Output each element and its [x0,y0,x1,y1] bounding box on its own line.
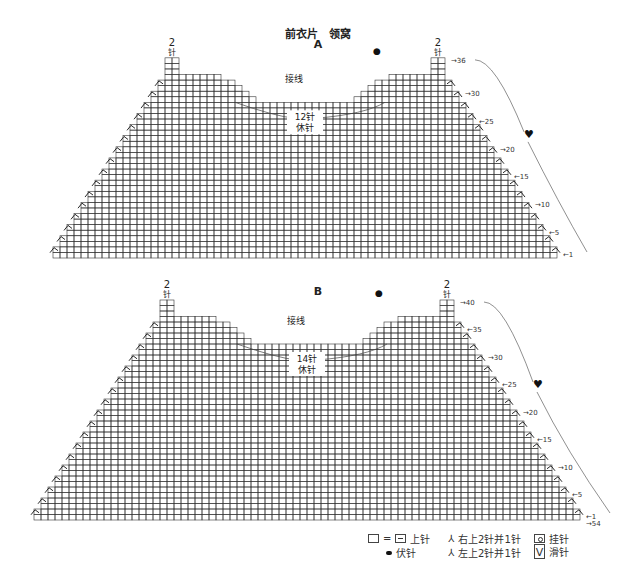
svg-text:→20: →20 [523,409,538,417]
svg-text:接线: 接线 [287,315,305,326]
legend-slip: V 滑针 [534,544,569,559]
svg-text:←5: ←5 [572,491,582,499]
slip-icon: V [534,544,545,559]
legend-bind-off: 伏针 [386,545,416,560]
svg-text:休针: 休针 [298,364,316,375]
svg-text:→10: →10 [558,464,573,472]
svg-text:←35: ←35 [467,326,482,334]
svg-text:●: ● [375,288,383,298]
empty-box-icon [368,534,379,543]
legend-left-dec: ⅄ 左上2针并1针 [448,545,521,560]
yarn-over-icon [534,534,545,543]
svg-text:→30: →30 [488,354,503,362]
bind-off-icon [386,551,392,555]
legend: = 上针 伏针 ⅄ 右上2针并1针 ⅄ 左上2针并1针 挂针 V 滑针 [368,531,628,571]
legend-right-dec: ⅄ 右上2针并1针 [448,531,521,546]
svg-text:14针: 14针 [297,353,317,364]
svg-text:针: 针 [163,289,171,299]
svg-text:→40: →40 [460,299,475,307]
legend-left-dec-label: 左上2针并1针 [458,545,521,560]
legend-slip-label: 滑针 [549,544,569,559]
legend-bind-off-label: 伏针 [396,545,416,560]
chart-b-diagram: →40←35→30←25→20←15→10←5←1→542针2针接线14针休针●… [0,0,636,579]
legend-knit-label: 上针 [410,531,430,546]
svg-text:←25: ←25 [502,381,517,389]
svg-text:←15: ←15 [537,436,552,444]
legend-eq: = [383,533,391,544]
left-decrease-icon: ⅄ [448,547,454,558]
svg-text:♥: ♥ [533,378,543,391]
legend-right-dec-label: 右上2针并1针 [458,531,521,546]
svg-text:针: 针 [443,289,451,299]
purl-box-icon [395,534,406,543]
legend-knit: = 上针 [368,531,430,546]
right-decrease-icon: ⅄ [448,533,454,544]
svg-text:→54: →54 [586,520,601,528]
svg-text:2: 2 [164,279,170,290]
svg-text:2: 2 [444,279,450,290]
